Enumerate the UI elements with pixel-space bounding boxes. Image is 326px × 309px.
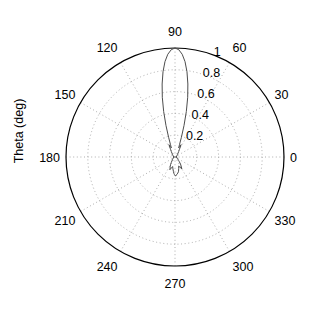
angle-tick-210: 210 — [55, 214, 76, 228]
angle-tick-270: 270 — [165, 277, 186, 291]
angle-tick-60: 60 — [233, 41, 247, 55]
angle-tick-180: 180 — [39, 151, 60, 165]
angle-tick-labels: 0306090120150180210240270300330 — [39, 25, 297, 291]
angle-tick-120: 120 — [97, 41, 118, 55]
grid-spoke-240 — [121, 157, 176, 251]
grid-spoke-300 — [175, 157, 230, 251]
angle-tick-30: 30 — [275, 88, 289, 102]
angle-tick-300: 300 — [233, 260, 254, 274]
grid-spoke-210 — [81, 157, 175, 212]
angle-tick-0: 0 — [290, 151, 297, 165]
grid-spoke-330 — [175, 157, 269, 212]
angle-tick-150: 150 — [55, 88, 76, 102]
angle-tick-240: 240 — [97, 260, 118, 274]
radial-tick-1: 1 — [214, 45, 221, 59]
grid-spokes — [66, 48, 284, 266]
grid-spoke-150 — [81, 103, 175, 158]
angle-tick-90: 90 — [168, 25, 182, 39]
radial-tick-0.8: 0.8 — [203, 66, 220, 80]
radial-tick-0.6: 0.6 — [197, 87, 214, 101]
radial-tick-0.4: 0.4 — [192, 108, 209, 122]
grid-spoke-120 — [121, 63, 176, 157]
radial-tick-0.2: 0.2 — [186, 129, 203, 143]
polar-plot-canvas: 0306090120150180210240270300330 0.20.40.… — [0, 0, 326, 309]
angle-tick-330: 330 — [275, 214, 296, 228]
polar-plot-figure: Theta (deg) 0306090120150180210240270300… — [0, 0, 326, 309]
